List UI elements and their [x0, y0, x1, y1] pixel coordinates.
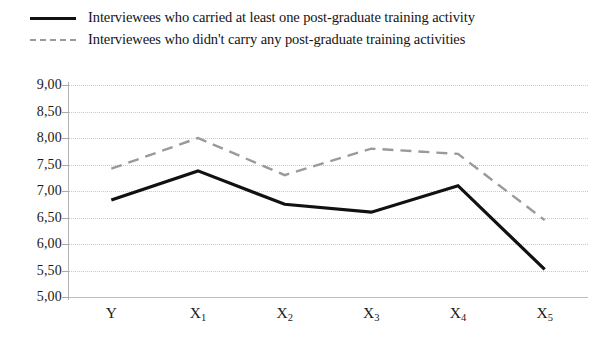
y-axis-tick-mark — [62, 271, 69, 272]
y-axis-tick-mark — [62, 85, 69, 86]
y-axis-tick-mark — [62, 244, 69, 245]
y-axis-tick-mark — [62, 297, 69, 298]
y-axis-tick-mark — [62, 138, 69, 139]
y-axis-tick-mark — [62, 191, 69, 192]
series-layer — [0, 0, 612, 344]
y-axis-tick-mark — [62, 112, 69, 113]
line-chart-figure: Interviewees who carried at least one po… — [0, 0, 612, 344]
y-axis-tick-mark — [62, 165, 69, 166]
y-axis-tick-mark — [62, 218, 69, 219]
series-line-carried — [111, 171, 544, 270]
